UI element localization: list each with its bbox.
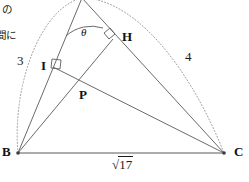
- side-length-label-ab: 3: [17, 54, 24, 67]
- side-length-label-ac: 4: [185, 50, 192, 63]
- geometry-figure: I の 間に B C H I P θ 3 4 √17: [0, 0, 249, 182]
- point-label-h: H: [122, 30, 132, 43]
- segment-ac: [82, 0, 224, 153]
- point-label-c: C: [234, 145, 243, 158]
- point-label-i: I: [41, 59, 46, 72]
- segment-bh: [18, 39, 113, 153]
- radical-symbol: √17: [112, 158, 133, 171]
- margin-note-line-2: 間に: [0, 30, 16, 41]
- segment-ic: [53, 67, 224, 153]
- point-label-p: P: [79, 88, 87, 101]
- vertex-dot-c: [222, 151, 226, 155]
- geometry-canvas: [0, 0, 249, 182]
- right-angle-mark-h: [104, 28, 115, 39]
- angle-label-theta: θ: [81, 27, 86, 38]
- margin-note-line-1: I の: [0, 4, 12, 15]
- point-label-b: B: [2, 145, 11, 158]
- dotted-circumscribing-arc: [17, 0, 224, 153]
- vertex-dot-b: [16, 151, 20, 155]
- side-length-label-bc: √17: [112, 158, 133, 171]
- radicand-value: 17: [118, 156, 133, 172]
